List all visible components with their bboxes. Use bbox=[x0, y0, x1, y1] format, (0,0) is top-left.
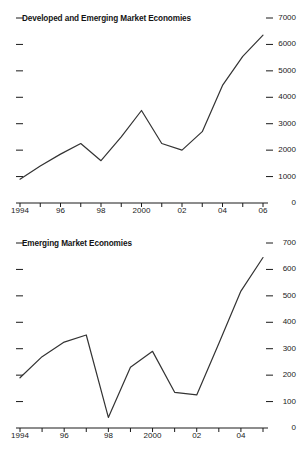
y-axis-label: 200 bbox=[283, 371, 296, 379]
y-axis-label: 4000 bbox=[278, 93, 296, 101]
y-axis-label: 400 bbox=[283, 318, 296, 326]
y-axis-label: 300 bbox=[283, 345, 296, 353]
x-axis-label: 2000 bbox=[144, 431, 162, 440]
x-axis-label: 02 bbox=[178, 206, 187, 215]
y-axis-label: 600 bbox=[283, 265, 296, 273]
y-axis-label: 5000 bbox=[278, 67, 296, 75]
plot-area-developed-and-emerging bbox=[0, 0, 299, 225]
x-axis-labels-top: 199496982000020406 bbox=[0, 206, 299, 220]
x-axis-label: 98 bbox=[97, 206, 106, 215]
x-axis-label: 96 bbox=[56, 206, 65, 215]
y-axis-label: 6000 bbox=[278, 40, 296, 48]
x-axis-label: 06 bbox=[259, 206, 268, 215]
x-axis-labels-bottom: 1994969820000204 bbox=[0, 431, 299, 445]
y-axis-left-ticks-top bbox=[16, 18, 23, 177]
y-axis-labels-top: 70006000500040003000200010000 bbox=[272, 0, 299, 205]
x-axis-label: 1994 bbox=[11, 431, 29, 440]
data-line-developed-and-emerging bbox=[20, 35, 263, 179]
y-axis-label: 2000 bbox=[278, 146, 296, 154]
plot-area-emerging bbox=[0, 225, 299, 450]
x-axis-label: 2000 bbox=[133, 206, 151, 215]
chart-panel-emerging: Emerging Market Economies 70060050040030… bbox=[0, 225, 299, 450]
y-axis-label: 1000 bbox=[278, 173, 296, 181]
y-axis-label: 7000 bbox=[278, 14, 296, 22]
y-axis-label: 100 bbox=[283, 398, 296, 406]
data-line-emerging bbox=[20, 258, 263, 418]
x-axis-label: 98 bbox=[104, 431, 113, 440]
x-axis-label: 96 bbox=[60, 431, 69, 440]
x-axis-label: 1994 bbox=[11, 206, 29, 215]
y-axis-label: 700 bbox=[283, 239, 296, 247]
y-axis-labels-bottom: 7006005004003002001000 bbox=[272, 225, 299, 430]
x-axis-label: 04 bbox=[218, 206, 227, 215]
y-axis-label: 500 bbox=[283, 292, 296, 300]
x-axis-label: 02 bbox=[192, 431, 201, 440]
chart-panel-developed-and-emerging: Developed and Emerging Market Economies … bbox=[0, 0, 299, 225]
chart-page: Developed and Emerging Market Economies … bbox=[0, 0, 299, 450]
y-axis-label: 3000 bbox=[278, 120, 296, 128]
x-axis-label: 04 bbox=[236, 431, 245, 440]
